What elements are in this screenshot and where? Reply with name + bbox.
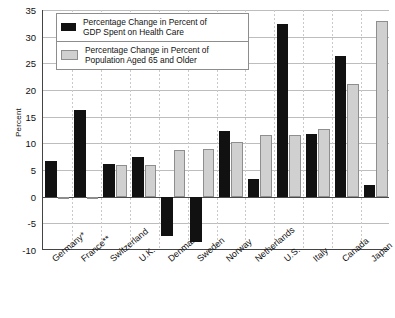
bar-health-care-netherlands	[248, 179, 260, 197]
bar-aged-65-us	[289, 135, 301, 197]
bar-health-care-italy	[306, 134, 318, 197]
bar-chart: Percent 35302520151050-5-10 Germany*Fran…	[0, 0, 395, 318]
category-separator	[274, 10, 275, 249]
bar-health-care-france	[74, 110, 86, 196]
bar-aged-65-france	[87, 197, 99, 199]
bar-health-care-norway	[219, 131, 231, 197]
bar-aged-65-japan	[376, 21, 388, 197]
bar-health-care-switzerland	[103, 164, 115, 197]
y-tick-label: 25	[8, 58, 36, 69]
y-tick-label: 20	[8, 85, 36, 96]
legend-item[interactable]: Percentage Change in Percent ofPopulatio…	[57, 41, 248, 69]
legend-swatch-icon	[61, 50, 78, 60]
legend-label: Percentage Change in Percent ofGDP Spent…	[83, 17, 207, 38]
bar-health-care-denmark	[161, 197, 173, 236]
legend-swatch-icon	[61, 23, 76, 31]
bar-health-care-canada	[335, 56, 347, 196]
y-tick-label: 15	[8, 111, 36, 122]
y-tick-label: 35	[8, 5, 36, 16]
y-axis-tick-labels: 35302520151050-5-10	[6, 0, 36, 318]
y-tick-label: 5	[8, 165, 36, 176]
bar-aged-65-norway	[231, 142, 243, 197]
bar-aged-65-sweden	[203, 149, 215, 197]
y-tick-label: 10	[8, 138, 36, 149]
y-tick-label: -5	[8, 218, 36, 229]
y-tick-label: -10	[8, 245, 36, 256]
legend-label: Percentage Change in Percent ofPopulatio…	[85, 45, 209, 66]
x-axis-tick-labels: Germany*France**SwitzerlandU.K.DenmarkSw…	[42, 252, 389, 318]
bar-health-care-germany	[45, 161, 57, 196]
y-tick-label: 0	[8, 191, 36, 202]
bar-aged-65-italy	[318, 129, 330, 196]
bar-aged-65-canada	[347, 84, 359, 197]
bar-aged-65-germany	[58, 197, 70, 200]
chart-legend: Percentage Change in Percent ofGDP Spent…	[56, 13, 249, 70]
y-tick-label: 30	[8, 31, 36, 42]
bar-aged-65-denmark	[174, 150, 186, 196]
bar-health-care-us	[277, 24, 289, 196]
category-separator	[303, 10, 304, 249]
legend-item[interactable]: Percentage Change in Percent ofGDP Spent…	[57, 14, 248, 41]
bar-health-care-japan	[364, 185, 376, 196]
bar-aged-65-netherlands	[260, 135, 272, 196]
bar-health-care-uk	[132, 157, 144, 196]
category-separator	[332, 10, 333, 249]
bar-aged-65-switzerland	[116, 165, 128, 197]
category-separator	[361, 10, 362, 249]
bar-aged-65-uk	[145, 165, 157, 197]
